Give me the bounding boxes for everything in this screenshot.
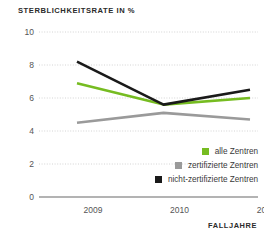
y-tick-label: 0 [12,193,34,202]
chart-figure: STERBLICHKEITSRATE IN % 0246810 20092010… [0,0,264,239]
series-lines [77,62,250,123]
x-tick-label: 2009 [71,205,115,215]
x-tick-label: 2010 [158,205,202,215]
chart-legend: alle Zentrenzertifizierte Zentrennicht-z… [120,144,258,186]
x-axis-title: FALLJAHRE [208,221,257,230]
x-tick-label: 2011 [244,205,264,215]
legend-item[interactable]: alle Zentren [120,144,258,158]
y-tick-label: 4 [12,127,34,136]
legend-swatch-icon [202,148,209,155]
series-line [77,113,250,123]
legend-swatch-icon [155,176,162,183]
y-tick-label: 2 [12,160,34,169]
legend-item[interactable]: nicht-zertifizierte Zentren [120,172,258,186]
legend-item[interactable]: zertifizierte Zentren [120,158,258,172]
legend-label: alle Zentren [215,147,258,156]
y-tick-label: 10 [12,28,34,37]
line-chart-plot [0,0,264,239]
legend-swatch-icon [175,162,182,169]
y-tick-label: 6 [12,94,34,103]
y-tick-label: 8 [12,61,34,70]
legend-label: nicht-zertifizierte Zentren [168,175,258,184]
legend-label: zertifizierte Zentren [188,161,258,170]
